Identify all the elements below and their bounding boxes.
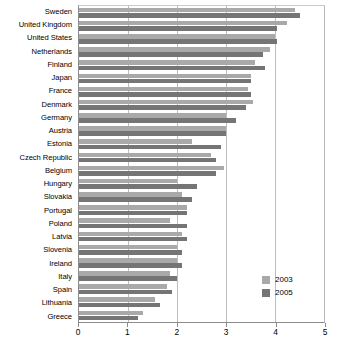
bar-2005 — [79, 118, 236, 123]
category-label: Poland — [0, 217, 76, 230]
bar-2005 — [79, 92, 251, 97]
bar-row — [79, 164, 324, 177]
axis-tick-label: 0 — [76, 328, 81, 336]
category-label: United States — [0, 32, 76, 45]
category-label: Finland — [0, 58, 76, 71]
bar-row — [79, 125, 324, 138]
bar-2003 — [79, 192, 182, 197]
category-label: Portugal — [0, 204, 76, 217]
bar-2003 — [79, 113, 226, 118]
bar-row — [79, 230, 324, 243]
bar-2005 — [79, 263, 182, 268]
bar-row — [79, 204, 324, 217]
bar-2005 — [79, 237, 187, 242]
category-label: Lithuania — [0, 297, 76, 310]
category-label: Estonia — [0, 138, 76, 151]
axis-tick-label: 2 — [174, 328, 179, 336]
bar-2003 — [79, 8, 295, 13]
category-label: France — [0, 85, 76, 98]
category-axis: SwedenUnited KingdomUnited StatesNetherl… — [0, 5, 76, 323]
bar-chart: SwedenUnited KingdomUnited StatesNetherl… — [0, 0, 337, 350]
bar-2003 — [79, 166, 224, 171]
bar-2003 — [79, 271, 170, 276]
category-label: Netherlands — [0, 45, 76, 58]
category-label: Belgium — [0, 164, 76, 177]
bar-2005 — [79, 224, 187, 229]
axis-tick-label: 4 — [273, 328, 278, 336]
bar-2005 — [79, 79, 251, 84]
bar-2005 — [79, 276, 177, 281]
axis-tick-label: 5 — [323, 328, 328, 336]
bar-2005 — [79, 250, 182, 255]
legend-swatch-2003 — [262, 276, 270, 284]
bar-2003 — [79, 297, 155, 302]
bar-2005 — [79, 197, 192, 202]
bar-2005 — [79, 26, 277, 31]
category-label: Greece — [0, 310, 76, 323]
category-label: Japan — [0, 71, 76, 84]
bar-2005 — [79, 39, 277, 44]
value-axis: 012345 — [78, 323, 325, 345]
category-label: Denmark — [0, 98, 76, 111]
category-label: Czech Republic — [0, 151, 76, 164]
bar-row — [79, 85, 324, 98]
category-label: Slovakia — [0, 191, 76, 204]
bar-2003 — [79, 232, 182, 237]
bar-2005 — [79, 145, 221, 150]
bar-2003 — [79, 245, 177, 250]
bar-row — [79, 151, 324, 164]
category-label: United Kingdom — [0, 18, 76, 31]
bar-2003 — [79, 60, 255, 65]
axis-tick-label: 3 — [224, 328, 229, 336]
bar-2005 — [79, 171, 216, 176]
bar-2003 — [79, 74, 251, 79]
bar-2003 — [79, 100, 253, 105]
category-label: Sweden — [0, 5, 76, 18]
bar-2005 — [79, 158, 216, 163]
bar-2005 — [79, 131, 226, 136]
axis-tick-label: 1 — [125, 328, 130, 336]
bar-row — [79, 32, 324, 45]
bar-row — [79, 177, 324, 190]
bar-2003 — [79, 153, 211, 158]
bar-2003 — [79, 34, 275, 39]
bar-row — [79, 46, 324, 59]
bar-row — [79, 111, 324, 124]
category-label: Slovenia — [0, 244, 76, 257]
bar-2005 — [79, 66, 265, 71]
bar-2005 — [79, 52, 263, 57]
bar-row — [79, 72, 324, 85]
bar-row — [79, 138, 324, 151]
category-label: Ireland — [0, 257, 76, 270]
bar-2005 — [79, 13, 300, 18]
category-label: Italy — [0, 270, 76, 283]
category-label: Germany — [0, 111, 76, 124]
bar-row — [79, 256, 324, 269]
bar-2005 — [79, 184, 197, 189]
bar-2005 — [79, 211, 187, 216]
category-label: Latvia — [0, 230, 76, 243]
legend-label: 2005 — [275, 289, 293, 297]
bar-2003 — [79, 311, 143, 316]
bar-2003 — [79, 179, 177, 184]
bar-2003 — [79, 139, 192, 144]
bar-row — [79, 19, 324, 32]
bar-row — [79, 98, 324, 111]
bar-row — [79, 59, 324, 72]
category-label: Hungary — [0, 177, 76, 190]
bar-2003 — [79, 284, 167, 289]
bar-2003 — [79, 47, 270, 52]
bar-row — [79, 243, 324, 256]
category-label: Spain — [0, 283, 76, 296]
legend-label: 2003 — [275, 276, 293, 284]
bar-row — [79, 217, 324, 230]
bar-2003 — [79, 126, 226, 131]
legend-entry: 2005 — [262, 289, 293, 297]
legend-entry: 2003 — [262, 276, 293, 284]
bar-row — [79, 190, 324, 203]
bar-2005 — [79, 316, 138, 321]
bar-2005 — [79, 105, 246, 110]
bar-row — [79, 296, 324, 309]
bar-2003 — [79, 258, 177, 263]
chart-legend: 20032005 — [262, 276, 293, 297]
